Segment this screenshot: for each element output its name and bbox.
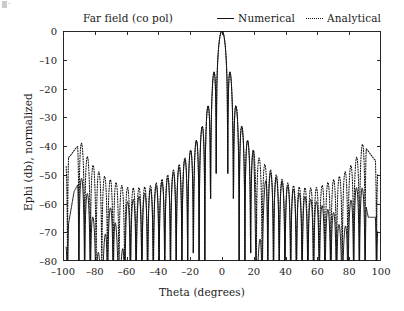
y-tick-label: –70 (30, 227, 57, 238)
y-tick-label: 0 (30, 26, 57, 37)
legend-label-numerical: Numerical (238, 12, 295, 24)
legend-item-analytical: Analytical (306, 12, 381, 24)
chart-title: Far field (co pol) (83, 12, 173, 24)
legend-item-numerical: Numerical (217, 12, 295, 24)
x-tick-label: –40 (150, 266, 168, 277)
x-tick-label: 20 (247, 266, 260, 277)
plot-canvas (63, 31, 381, 261)
y-tick-label: –50 (30, 169, 57, 180)
y-tick-label: –30 (30, 112, 57, 123)
axis-frame (64, 32, 381, 261)
y-tick-label: –80 (30, 256, 57, 267)
legend: Numerical Analytical (217, 12, 381, 24)
x-tick-label: 100 (371, 266, 390, 277)
far-field-chart-figure: Far field (co pol) Numerical Analytical … (0, 0, 404, 311)
x-tick-label: 60 (311, 266, 324, 277)
y-tick-label: –10 (30, 54, 57, 65)
x-tick-label: –80 (86, 266, 104, 277)
legend-label-analytical: Analytical (327, 12, 381, 24)
scan-artifact (2, 1, 7, 8)
x-tick-label: –60 (118, 266, 136, 277)
plot-area (63, 31, 381, 261)
x-tick-label: 40 (279, 266, 292, 277)
x-tick-label: 0 (219, 266, 225, 277)
series-line-analytical (66, 31, 377, 261)
x-tick-label: –100 (51, 266, 75, 277)
y-tick-label: –20 (30, 83, 57, 94)
x-tick-label: –20 (181, 266, 199, 277)
y-tick-label: –60 (30, 198, 57, 209)
scan-artifact-secondary (8, 3, 11, 4)
x-tick-label: 80 (343, 266, 356, 277)
y-tick-label: –40 (30, 141, 57, 152)
dotted-line-icon (306, 15, 323, 22)
axis-ticks (64, 32, 381, 261)
solid-line-icon (217, 15, 234, 22)
x-axis-label: Theta (degrees) (0, 286, 404, 298)
y-axis-label: Ephi (db), normalized (22, 62, 34, 242)
chart-header: Far field (co pol) Numerical Analytical (63, 9, 381, 27)
